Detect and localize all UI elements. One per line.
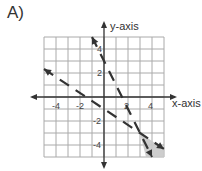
y-axis-down-arrow-icon <box>101 162 107 169</box>
x-tick-label: 4 <box>148 101 153 111</box>
x-axis-left-arrow-icon <box>30 94 37 100</box>
coordinate-plane: -4-22442-2-4 y-axis x-axis <box>0 0 202 171</box>
y-tick-label: 4 <box>97 44 102 54</box>
y-axis-label: y-axis <box>110 20 139 32</box>
y-tick-label: 2 <box>97 68 102 78</box>
x-tick-label: -2 <box>76 101 84 111</box>
y-axis-up-arrow-icon <box>101 21 107 28</box>
y-tick-label: -4 <box>93 140 101 150</box>
x-tick-label: -4 <box>52 101 60 111</box>
x-axis-label: x-axis <box>172 97 201 109</box>
y-tick-label: -2 <box>93 116 101 126</box>
